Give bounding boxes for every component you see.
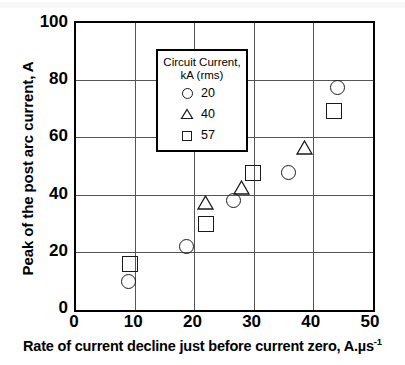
y-tick-label: 40 <box>8 184 68 204</box>
data-point-circle <box>121 274 136 289</box>
scatter-chart-figure: Peak of the post arc current, A Rate of … <box>0 0 405 365</box>
legend-entry-label: 20 <box>201 86 215 100</box>
gridline-horizontal <box>76 252 373 253</box>
legend-entry-40: 40 <box>158 103 246 124</box>
data-point-square <box>245 165 261 181</box>
legend-entry-label: 40 <box>201 107 215 121</box>
scan-artifact <box>0 2 405 8</box>
y-tick-label: 100 <box>8 12 68 32</box>
y-tick-label: 80 <box>8 69 68 89</box>
data-point-triangle <box>288 140 304 154</box>
x-axis-title-superscript: -1 <box>374 336 382 347</box>
x-tick-label: 30 <box>232 312 272 332</box>
square-marker-icon <box>180 128 194 142</box>
x-axis-title: Rate of current decline just before curr… <box>0 338 405 354</box>
triangle-marker-icon <box>180 107 194 121</box>
data-point-circle <box>281 165 296 180</box>
data-point-triangle <box>189 195 205 209</box>
data-point-circle <box>330 80 345 95</box>
gridline-vertical <box>313 23 314 310</box>
x-tick-label: 0 <box>54 312 94 332</box>
legend-entry-57: 57 <box>158 124 246 145</box>
data-point-square <box>198 216 214 232</box>
legend-title-line2: kA (rms) <box>158 69 246 82</box>
chart-legend: Circuit Current, kA (rms) 20 40 57 <box>156 49 248 152</box>
y-tick-label: 60 <box>8 126 68 146</box>
legend-entry-20: 20 <box>158 82 246 103</box>
x-tick-label: 10 <box>113 312 153 332</box>
legend-title: Circuit Current, kA (rms) <box>158 51 246 82</box>
circle-marker-icon <box>180 86 194 100</box>
x-axis-title-base: Rate of current decline just before curr… <box>23 338 374 354</box>
x-tick-label: 20 <box>172 312 212 332</box>
legend-entry-label: 57 <box>201 128 215 142</box>
x-tick-label: 50 <box>350 312 390 332</box>
plot-area: Circuit Current, kA (rms) 20 40 57 <box>74 21 375 312</box>
gridline-horizontal <box>76 195 373 196</box>
legend-title-line1: Circuit Current, <box>158 56 246 69</box>
data-point-circle <box>226 193 241 208</box>
x-tick-label: 40 <box>291 312 331 332</box>
data-point-triangle <box>225 180 241 194</box>
y-tick-label: 20 <box>8 241 68 261</box>
data-point-square <box>122 256 138 272</box>
data-point-square <box>326 103 342 119</box>
